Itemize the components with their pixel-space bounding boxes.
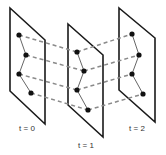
node-t1-2: [74, 87, 79, 92]
node-t2-2: [129, 71, 134, 76]
node-t2-0: [129, 31, 134, 36]
node-t0-0: [16, 32, 21, 37]
node-t0-3: [28, 90, 33, 95]
frame-plane-t0: [10, 8, 45, 124]
frame-plane-t2: [119, 8, 155, 122]
track-layer: [19, 34, 143, 110]
correspondence-line-1-3: [88, 94, 143, 110]
correspondence-line-0-3: [31, 93, 88, 110]
correspondence-line-1-2: [77, 74, 132, 90]
correspondence-line-0-1: [26, 55, 84, 71]
label-layer: t = 0 t = 1 t = 2: [19, 124, 145, 150]
node-t0-2: [16, 71, 21, 76]
node-t1-1: [81, 68, 86, 73]
node-t2-3: [140, 91, 145, 96]
frame-label-t2: t = 2: [129, 124, 145, 133]
chain-layer: [19, 34, 143, 110]
node-t1-3: [85, 107, 90, 112]
node-chain-t1: [77, 52, 88, 110]
time-slice-diagram: t = 0 t = 1 t = 2: [0, 0, 166, 155]
frame-label-t1: t = 1: [78, 141, 94, 150]
node-chain-t2: [132, 34, 143, 94]
correspondence-line-1-1: [84, 55, 139, 71]
node-layer: [16, 31, 145, 112]
node-chain-t0: [19, 35, 31, 93]
frame-plane-t1: [68, 24, 103, 137]
node-t1-0: [74, 49, 79, 54]
node-t2-1: [136, 52, 141, 57]
frame-label-t0: t = 0: [19, 124, 35, 133]
node-t0-1: [23, 52, 28, 57]
correspondence-line-1-0: [77, 34, 132, 52]
